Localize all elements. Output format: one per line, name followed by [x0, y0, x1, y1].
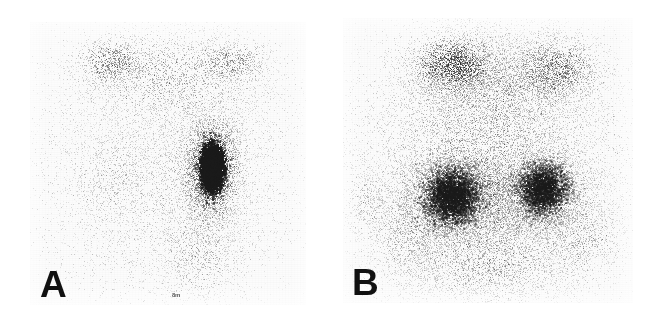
scan-panel-b	[343, 18, 633, 303]
panel-label-b: B	[352, 264, 379, 301]
scintigram-image-b	[343, 18, 633, 303]
panel-label-a: A	[40, 266, 67, 303]
scan-panel-a	[30, 22, 306, 305]
scintigram-image-a	[30, 22, 306, 305]
panel-a-lead-marker: 8m	[172, 293, 180, 298]
figure-root: A 8m B	[0, 0, 662, 320]
